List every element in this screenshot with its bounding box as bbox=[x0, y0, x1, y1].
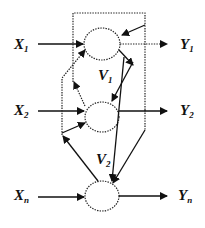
output-label-2: Y2 bbox=[180, 102, 194, 120]
output-label-1: Y1 bbox=[180, 36, 194, 54]
rnn-diagram: X1 X2 Xn Y1 Y2 Yn V1 V2 bbox=[0, 0, 205, 228]
input-label-n: Xn bbox=[13, 187, 29, 205]
weight-label-v2: V2 bbox=[96, 151, 111, 169]
input-label-2: X2 bbox=[13, 102, 29, 120]
feedback-frame bbox=[73, 13, 145, 130]
weight-label-v1: V1 bbox=[98, 67, 113, 85]
node-n bbox=[85, 181, 119, 211]
node-2 bbox=[85, 102, 119, 132]
node-1 bbox=[84, 28, 120, 60]
input-label-1: X1 bbox=[13, 36, 29, 54]
output-label-n: Yn bbox=[178, 187, 192, 205]
